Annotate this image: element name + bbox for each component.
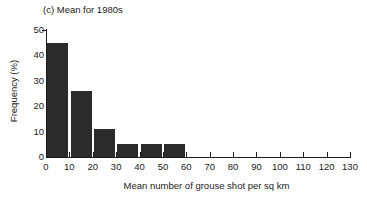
x-axis-line <box>46 157 351 158</box>
histogram-chart: Frequency (%) 01020304050 01020304050607… <box>0 0 367 199</box>
x-tick-mark <box>280 152 281 157</box>
y-tick-label: 10 <box>16 127 44 137</box>
bar <box>141 144 162 157</box>
y-tick-label-text: 20 <box>22 101 44 111</box>
x-tick-mark <box>350 152 351 157</box>
x-tick-mark <box>327 152 328 157</box>
x-tick-mark <box>303 152 304 157</box>
y-tick-label-text: 40 <box>22 50 44 60</box>
bar <box>117 144 138 157</box>
bar <box>47 43 68 157</box>
bar <box>94 129 115 157</box>
bar <box>71 91 92 157</box>
y-tick-mark <box>42 30 46 31</box>
y-tick-label: 30 <box>16 76 44 86</box>
x-tick-mark <box>233 152 234 157</box>
y-tick-label: 20 <box>16 101 44 111</box>
x-tick-mark <box>256 152 257 157</box>
x-tick-label: 130 <box>335 161 365 172</box>
x-axis-title: Mean number of grouse shot per sq km <box>0 180 367 191</box>
y-tick-label: 40 <box>16 50 44 60</box>
y-tick-label: 50 <box>16 25 44 35</box>
x-tick-mark <box>210 152 211 157</box>
y-tick-label-text: 10 <box>22 127 44 137</box>
bar <box>164 144 185 157</box>
y-tick-label-text: 50 <box>22 25 44 35</box>
y-tick-label-text: 30 <box>22 76 44 86</box>
x-tick-mark <box>186 152 187 157</box>
